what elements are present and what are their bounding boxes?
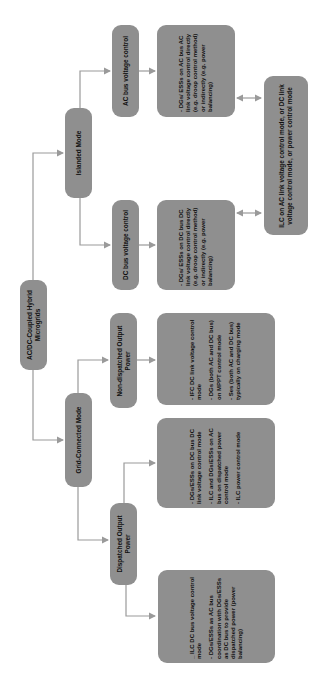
ac-bus-detail-item: - DGs/ ESSs on AC bus AC link voltage co… <box>178 30 214 112</box>
grid-connected-mode-label: Grid-Connected Mode <box>75 407 83 474</box>
ac-bus-detail-text: - DGs/ ESSs on AC bus AC link voltage co… <box>178 30 214 112</box>
dc-bus-voltage-control-label: DC bus voltage control <box>122 210 130 280</box>
dispatched-ilc-detail-text: _ ILC DC bus voltage control mode - DGs/… <box>189 575 244 659</box>
dispatched-output-power-node: Dispatched Output Power <box>110 503 137 585</box>
grid-connected-mode-node: Grid-Connected Mode <box>65 393 92 487</box>
non-dispatched-detail-node: - IFC DC link voltage control mode - DGs… <box>157 313 275 405</box>
non-dispatched-detail-item: - DGs (both AC and DC bus) on MPPT contr… <box>209 318 223 400</box>
non-dispatched-detail-item: - Ses (both AC and DC bus) typically on … <box>228 318 242 400</box>
dispatched-dc-detail-text: - DGs/ESSs on DC bus DC link voltage con… <box>189 422 242 504</box>
dispatched-ilc-detail-item: - DGs/ESSs as AC bus coordination with D… <box>208 575 244 659</box>
dispatched-output-power-label: Dispatched Output Power <box>116 505 131 583</box>
ac-bus-voltage-control-label: AC bus voltage control <box>122 36 130 106</box>
islanded-mode-label: Islanded Mode <box>75 131 83 175</box>
ilc-control-mode-label: ILC on AC link voltage control mode, or … <box>278 81 293 231</box>
non-dispatched-output-power-label: Non-dispatched Output Power <box>116 317 131 405</box>
root-node-label: AC/DC-Coupled Hybrid Microgrids <box>26 280 41 370</box>
dispatched-dc-detail-node: - DGs/ESSs on DC bus DC link voltage con… <box>157 418 275 508</box>
dc-bus-detail-item: - DGs/ ESSs on DC bus DC link voltage co… <box>178 204 214 286</box>
dispatched-ilc-detail-item: _ ILC DC bus voltage control mode <box>189 575 203 659</box>
dispatched-ilc-detail-node: _ ILC DC bus voltage control mode - DGs/… <box>158 570 275 663</box>
dc-bus-voltage-control-node: DC bus voltage control <box>112 200 139 290</box>
non-dispatched-output-power-node: Non-dispatched Output Power <box>110 313 137 408</box>
non-dispatched-detail-item: - IFC DC link voltage control mode <box>189 318 203 400</box>
ac-bus-detail-node: - DGs/ ESSs on AC bus AC link voltage co… <box>157 25 235 117</box>
ilc-control-mode-node: ILC on AC link voltage control mode, or … <box>264 76 308 235</box>
islanded-mode-node: Islanded Mode <box>65 108 92 198</box>
dispatched-dc-detail-item: - DGs/ESSs on DC bus DC link voltage con… <box>189 422 203 504</box>
dispatched-dc-detail-item: - ILC power control mode <box>235 422 242 504</box>
root-node-hybrid-microgrids: AC/DC-Coupled Hybrid Microgrids <box>20 280 47 370</box>
non-dispatched-detail-text: - IFC DC link voltage control mode - DGs… <box>189 318 242 400</box>
dispatched-dc-detail-item: - ILC and DGs/ESSs on AC bus on dispatch… <box>209 422 231 504</box>
ac-bus-voltage-control-node: AC bus voltage control <box>112 25 139 117</box>
dc-bus-detail-text: - DGs/ ESSs on DC bus DC link voltage co… <box>178 204 214 286</box>
dc-bus-detail-node: - DGs/ ESSs on DC bus DC link voltage co… <box>157 200 235 290</box>
